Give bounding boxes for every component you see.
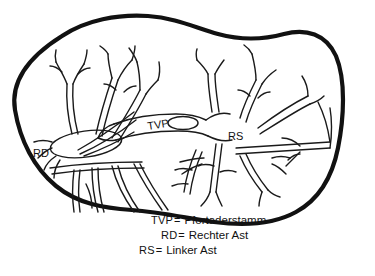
label-rd: RD (33, 147, 49, 159)
legend-term-rd: Rechter Ast (189, 229, 248, 241)
label-rs: RS (228, 130, 243, 142)
rs-up-a-tip (196, 49, 197, 60)
liver-outline-group (14, 16, 343, 224)
legend-equals: = (155, 244, 166, 256)
legend-abbr-rd: RD (161, 229, 177, 241)
legend-equals: = (177, 229, 188, 241)
legend-row: RD = Rechter Ast (139, 229, 369, 244)
legend-abbr-tvp: TVP (151, 214, 173, 226)
legend-term-rs: Linker Ast (166, 244, 217, 256)
legend-row: TVP = Pfortaderstamm (139, 214, 369, 229)
legend: TVP = Pfortaderstamm RD = Rechter Ast RS… (139, 214, 369, 259)
figure-canvas: TVP RD RS TVP = Pfortaderstamm RD = Rech… (0, 0, 375, 276)
legend-row: RS = Linker Ast (139, 244, 369, 259)
rd-branch-a-tip1 (55, 50, 56, 62)
legend-abbr-rs: RS (139, 244, 155, 256)
legend-term-tvp: Pfortaderstamm (184, 214, 266, 226)
legend-equals: = (173, 214, 184, 226)
liver-outline (14, 16, 343, 224)
